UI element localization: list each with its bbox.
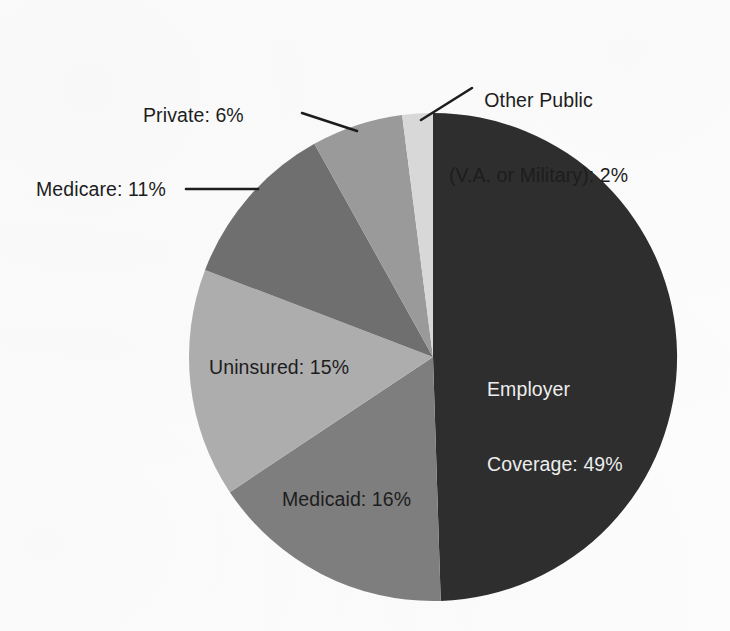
slice-label-other-public: Other Public (V.A. or Military): 2%: [449, 38, 628, 238]
leader-line-private: [302, 113, 357, 131]
slice-label-other-public-line1: Other Public: [449, 88, 628, 113]
slice-label-other-public-line2: (V.A. or Military): 2%: [449, 163, 628, 188]
pie-chart-figure: Other Public (V.A. or Military): 2% Priv…: [0, 0, 730, 631]
slice-label-uninsured: Uninsured: 15%: [209, 355, 349, 380]
slice-label-employer-coverage-line1: Employer: [487, 377, 623, 402]
slice-label-employer-coverage: Employer Coverage: 49%: [487, 327, 623, 527]
slice-label-medicare: Medicare: 11%: [36, 177, 166, 202]
slice-label-private: Private: 6%: [143, 103, 244, 128]
slice-label-employer-coverage-line2: Coverage: 49%: [487, 452, 623, 477]
slice-label-medicaid: Medicaid: 16%: [282, 487, 411, 512]
